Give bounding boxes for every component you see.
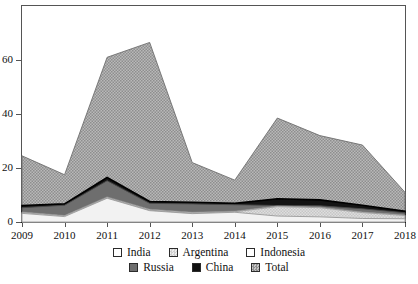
legend-label: India [127,246,151,258]
stacked-area-plot [21,5,406,223]
x-tick-label: 2017 [342,229,382,241]
legend-item-argentina[interactable]: Argentina [169,246,229,258]
y-tick-label: 0 [0,216,13,227]
legend-label: China [206,261,233,273]
y-tick-label: 40 [0,108,13,119]
legend-item-total[interactable]: Total [251,261,288,273]
x-tick-mark [65,223,66,227]
x-tick-label: 2009 [2,229,42,241]
x-tick-mark [405,223,406,227]
y-axis: 0204060 [0,0,21,228]
legend-row: RussiaChinaTotal [120,261,298,273]
chart-legend: IndiaArgentinaIndonesiaRussiaChinaTotal [0,246,418,273]
legend-label: Total [265,261,288,273]
legend-row: IndiaArgentinaIndonesia [104,246,314,258]
legend-item-china[interactable]: China [192,261,233,273]
legend-label: Russia [143,261,174,273]
x-tick-mark [22,223,23,227]
indonesia-swatch-icon [246,248,255,257]
figure-title [42,0,372,4]
x-tick-mark [192,223,193,227]
x-tick-mark [235,223,236,227]
x-tick-label: 2013 [172,229,212,241]
x-tick-label: 2016 [300,229,340,241]
y-tick-label: 20 [0,162,13,173]
x-tick-label: 2014 [215,229,255,241]
legend-item-india[interactable]: India [113,246,151,258]
x-tick-mark [320,223,321,227]
plot-area [21,5,406,223]
argentina-swatch-icon [169,248,178,257]
legend-item-russia[interactable]: Russia [129,261,174,273]
india-swatch-icon [113,248,122,257]
x-tick-label: 2015 [257,229,297,241]
x-axis: 2009201020112012201320142015201620172018 [21,223,406,245]
chart-figure: 0204060 20092010201120122013201420152 [0,0,418,284]
china-swatch-icon [192,263,201,272]
legend-item-indonesia[interactable]: Indonesia [246,246,305,258]
total-swatch-icon [251,263,260,272]
x-tick-label: 2012 [130,229,170,241]
x-tick-mark [362,223,363,227]
x-tick-mark [107,223,108,227]
legend-label: Argentina [183,246,229,258]
x-tick-mark [150,223,151,227]
x-tick-label: 2010 [45,229,85,241]
x-tick-label: 2011 [87,229,127,241]
y-tick-label: 60 [0,54,13,65]
legend-label: Indonesia [260,246,305,258]
x-tick-mark [277,223,278,227]
russia-swatch-icon [129,263,138,272]
x-tick-label: 2018 [385,229,418,241]
